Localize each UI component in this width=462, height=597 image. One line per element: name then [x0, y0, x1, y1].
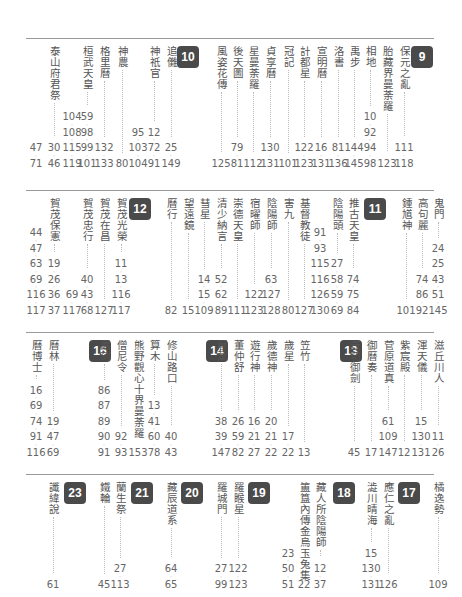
- page-number[interactable]: 104: [128, 158, 147, 170]
- leader-dots: [121, 244, 122, 252]
- page-number[interactable]: 130: [310, 305, 329, 317]
- leader-dots: [371, 528, 372, 542]
- page-number[interactable]: 91: [98, 447, 111, 459]
- page-numbers: 132·133: [94, 142, 113, 169]
- page-number[interactable]: 68: [81, 305, 94, 317]
- index-term: 御曆奏: [366, 340, 377, 373]
- page-number[interactable]: 45: [98, 579, 111, 591]
- page-numbers: 40·43·68: [81, 274, 94, 317]
- index-entry: 賀茂在昌127: [96, 198, 112, 316]
- page-number[interactable]: 26: [432, 447, 445, 459]
- page-number[interactable]: 89: [215, 305, 228, 317]
- page-number[interactable]: 69: [331, 305, 344, 317]
- page-number[interactable]: 99: [215, 579, 228, 591]
- page-number[interactable]: 91: [148, 158, 161, 170]
- leader-dots: [104, 364, 105, 380]
- page-number[interactable]: 65: [165, 579, 178, 591]
- leader-dots: [53, 364, 54, 411]
- page-number[interactable]: 82: [232, 447, 245, 459]
- page-number[interactable]: 46: [48, 158, 61, 170]
- page-number[interactable]: 145: [344, 158, 363, 170]
- index-entry: 簠簋內傳金烏玉兔集22: [296, 482, 312, 590]
- page-number[interactable]: 123: [228, 579, 247, 591]
- index-term: 洛書: [333, 46, 344, 68]
- page-number[interactable]: 84: [347, 305, 360, 317]
- page-number[interactable]: 92: [416, 305, 429, 317]
- page-number[interactable]: 69: [47, 447, 60, 459]
- leader-dots: [54, 103, 55, 136]
- page-number[interactable]: 43: [165, 447, 178, 459]
- index-term: 貞享曆: [265, 46, 276, 79]
- page-number[interactable]: 78: [148, 447, 161, 459]
- page-numbers: 91·93·115·116·126·130: [310, 227, 329, 316]
- page-number[interactable]: 118: [394, 158, 413, 170]
- index-entry: 鍾馗神101: [398, 198, 414, 316]
- page-number[interactable]: 81: [231, 158, 244, 170]
- page-number[interactable]: 45: [348, 447, 361, 459]
- index-term: 讖緯說: [48, 482, 59, 515]
- leader-dots: [354, 386, 355, 441]
- page-number[interactable]: 82: [165, 305, 178, 317]
- page-number[interactable]: 51: [282, 579, 295, 591]
- index-entry: 笠竹13: [296, 340, 312, 458]
- page-number[interactable]: 125: [211, 158, 230, 170]
- index-entry: 清少納言52·62·89: [213, 198, 229, 316]
- page-number[interactable]: 147: [211, 447, 230, 459]
- index-term: 泰山府君祭: [49, 46, 60, 101]
- page-number[interactable]: 98: [364, 158, 377, 170]
- page-number[interactable]: 109: [194, 305, 213, 317]
- page-number[interactable]: 133: [94, 158, 113, 170]
- page-number[interactable]: 101: [396, 305, 415, 317]
- page-number[interactable]: 117: [111, 305, 130, 317]
- leader-dots: [238, 517, 239, 558]
- page-number[interactable]: 117: [26, 305, 45, 317]
- index-entry: 星曼荼羅112: [245, 46, 261, 169]
- page-number[interactable]: 116: [26, 447, 45, 459]
- index-term: 澁川晴海: [366, 482, 377, 526]
- page-number[interactable]: 149: [161, 158, 180, 170]
- page-number[interactable]: 113: [110, 579, 129, 591]
- page-number[interactable]: 15: [182, 305, 195, 317]
- page-number[interactable]: 80: [116, 158, 129, 170]
- index-section: 10947·71泰山府君祭30·46104·108·115·119桓武天皇59·…: [26, 38, 434, 173]
- index-term: 星曼荼羅: [248, 46, 259, 90]
- page-number[interactable]: 61: [47, 579, 60, 591]
- leader-dots: [388, 528, 389, 573]
- page-number[interactable]: 22: [298, 579, 311, 591]
- index-term: 滋丘川人: [433, 340, 444, 384]
- leader-dots: [353, 244, 354, 268]
- page-number[interactable]: 37: [48, 305, 61, 317]
- page-numbers: 11·26: [432, 431, 445, 458]
- page-number[interactable]: 131: [260, 158, 279, 170]
- index-entry: 滋丘川人11·26: [430, 340, 446, 458]
- page-number[interactable]: 12: [398, 447, 411, 459]
- page-number[interactable]: 147: [378, 447, 397, 459]
- index-term: 賀茂光榮: [116, 198, 127, 242]
- index-term: 笠竹: [299, 340, 310, 362]
- page-number[interactable]: 153: [128, 447, 147, 459]
- page-number[interactable]: 71: [30, 158, 43, 170]
- index-term: 曆博士: [31, 340, 42, 373]
- page-numbers: 24·25·43·51·145: [428, 243, 447, 317]
- page-number[interactable]: 22: [265, 447, 278, 459]
- page-number[interactable]: 22: [282, 447, 295, 459]
- page-number[interactable]: 27: [248, 447, 261, 459]
- page-numbers: 111·118: [394, 142, 413, 169]
- page-number[interactable]: 37: [314, 579, 327, 591]
- index-term: 追儺: [166, 46, 177, 68]
- page-number[interactable]: 13: [298, 447, 311, 459]
- page-number[interactable]: 131: [411, 447, 430, 459]
- page-number[interactable]: 145: [428, 305, 447, 317]
- page-number[interactable]: 93: [115, 447, 128, 459]
- leader-dots: [122, 70, 123, 153]
- page-number[interactable]: 109: [428, 579, 447, 591]
- page-numbers: 27·113: [110, 563, 129, 590]
- page-number[interactable]: 126: [378, 579, 397, 591]
- page-number[interactable]: 17: [365, 447, 378, 459]
- page-number[interactable]: 128: [261, 305, 280, 317]
- page-number[interactable]: 80: [282, 305, 295, 317]
- leader-dots: [36, 375, 37, 379]
- page-numbers: 80: [116, 158, 129, 170]
- index-entry: 陰陽師63·127·128: [263, 198, 279, 316]
- page-numbers: 63·127·128: [261, 274, 280, 317]
